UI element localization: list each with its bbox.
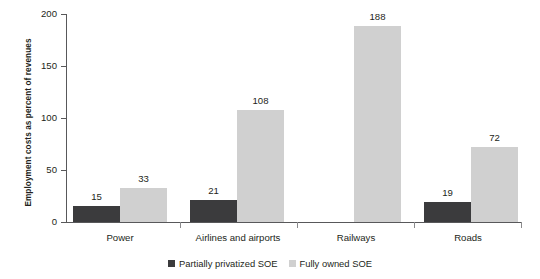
y-tick-mark — [61, 66, 66, 67]
bar-airlines-partially-privatized[interactable]: 21 — [190, 200, 237, 222]
y-axis-title: Employment costs as percent of revenues — [24, 7, 33, 239]
y-tick-mark — [61, 170, 66, 171]
x-category-roads: Roads — [454, 232, 482, 243]
x-axis-line — [66, 222, 521, 223]
bar-value-label: 19 — [442, 187, 453, 198]
x-category-power: Power — [106, 232, 133, 243]
y-tick-label: 50 — [46, 164, 57, 175]
x-category-railways: Railways — [337, 232, 375, 243]
bar-power-fully-owned[interactable]: 33 — [120, 188, 167, 222]
bar-power-partially-privatized[interactable]: 15 — [73, 206, 120, 222]
bar-value-label: 21 — [208, 185, 219, 196]
legend-label: Fully owned SOE — [300, 258, 372, 269]
chart-legend: Partially privatized SOE Fully owned SOE — [0, 258, 540, 269]
bar-railways-fully-owned[interactable]: 188 — [354, 26, 401, 222]
y-tick-mark — [61, 222, 66, 223]
legend-swatch-icon — [168, 260, 175, 267]
y-tick-label: 0 — [52, 216, 57, 227]
bar-roads-fully-owned[interactable]: 72 — [471, 147, 518, 222]
y-tick-mark — [61, 118, 66, 119]
bar-roads-partially-privatized[interactable]: 19 — [424, 202, 471, 222]
bar-value-label: 108 — [252, 95, 268, 106]
x-category-airlines-and-airports: Airlines and airports — [196, 232, 281, 243]
y-tick-label: 100 — [41, 112, 57, 123]
legend-item-partially-privatized-soe[interactable]: Partially privatized SOE — [168, 258, 277, 269]
legend-swatch-icon — [289, 260, 296, 267]
category-separator — [414, 222, 415, 228]
bar-value-label: 188 — [369, 11, 385, 22]
category-separator — [521, 222, 522, 228]
bar-value-label: 33 — [138, 173, 149, 184]
bar-chart: Employment costs as percent of revenues … — [0, 0, 540, 279]
y-tick-mark — [61, 14, 66, 15]
legend-label: Partially privatized SOE — [179, 258, 277, 269]
category-separator — [297, 222, 298, 228]
bar-airlines-fully-owned[interactable]: 108 — [237, 110, 284, 222]
y-tick-label: 150 — [41, 60, 57, 71]
bar-value-label: 72 — [489, 132, 500, 143]
category-separator — [180, 222, 181, 228]
plot-area: 200 150 100 50 0 15 33 21 — [66, 14, 521, 222]
bar-value-label: 15 — [91, 191, 102, 202]
legend-item-fully-owned-soe[interactable]: Fully owned SOE — [289, 258, 372, 269]
y-tick-label: 200 — [41, 8, 57, 19]
